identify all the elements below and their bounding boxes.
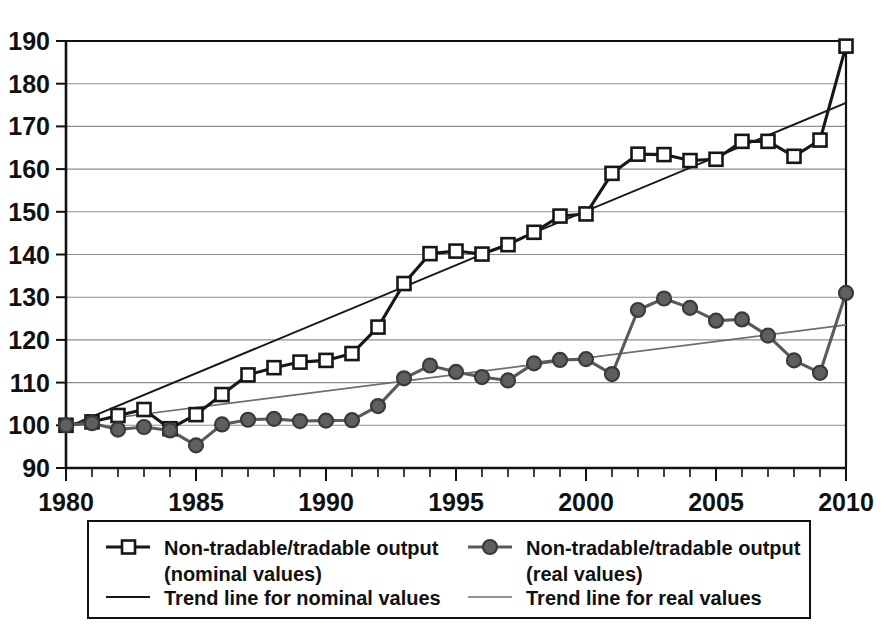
data-point-marker [423, 359, 437, 373]
data-point-marker [267, 412, 281, 426]
data-point-marker [632, 148, 645, 161]
data-point-marker [424, 247, 437, 260]
legend-entry-sublabel: (real values) [526, 563, 643, 585]
data-point-marker [658, 148, 671, 161]
data-point-marker [112, 409, 125, 422]
x-axis-tick-label: 2010 [818, 488, 874, 516]
data-point-marker [736, 135, 749, 148]
data-point-marker [137, 420, 151, 434]
data-point-marker [163, 423, 177, 437]
data-point-marker [111, 423, 125, 437]
data-point-marker [242, 368, 255, 381]
data-point-marker [59, 418, 73, 432]
data-point-marker [476, 248, 489, 261]
y-axis-tick-label: 110 [10, 369, 50, 397]
data-point-marker [840, 40, 853, 53]
y-axis-tick-label: 160 [8, 155, 50, 183]
data-point-marker [345, 413, 359, 427]
y-axis-tick-label: 150 [8, 198, 50, 226]
data-point-marker [631, 303, 645, 317]
data-point-marker [268, 361, 281, 374]
y-axis-tick-labels: 90100110120130140150160170180190 [8, 27, 50, 482]
data-point-marker [606, 167, 619, 180]
data-point-marker [501, 373, 515, 387]
data-point-marker [527, 356, 541, 370]
x-axis-tick-label: 1980 [38, 488, 94, 516]
y-axis-tick-label: 100 [8, 411, 50, 439]
data-point-marker [710, 153, 723, 166]
y-axis-tick-label: 190 [8, 27, 50, 55]
data-point-marker [189, 438, 203, 452]
x-axis-tick-label: 2005 [688, 488, 744, 516]
x-axis-major-ticks [66, 468, 846, 481]
legend-entry-label: Trend line for real values [526, 587, 762, 609]
data-point-marker [554, 210, 567, 223]
data-point-marker [684, 154, 697, 167]
data-point-marker [475, 370, 489, 384]
series-markers-group [59, 40, 853, 453]
chart-container: 90100110120130140150160170180190 1980198… [0, 0, 893, 636]
legend-entry-label: Non-tradable/tradable output [164, 537, 439, 559]
data-point-marker [813, 366, 827, 380]
data-point-marker [787, 353, 801, 367]
data-point-marker [398, 277, 411, 290]
legend-entry-sublabel: (nominal values) [164, 563, 322, 585]
data-point-marker [579, 352, 593, 366]
data-point-marker [397, 371, 411, 385]
x-axis-tick-label: 1990 [298, 488, 354, 516]
data-point-marker [372, 321, 385, 334]
y-axis-tick-label: 130 [8, 283, 50, 311]
chart-legend: Non-tradable/tradable output(nominal val… [88, 521, 810, 618]
y-axis-tick-label: 140 [8, 241, 50, 269]
x-axis-tick-label: 1985 [168, 488, 224, 516]
data-point-marker [138, 403, 151, 416]
x-axis-tick-labels: 1980198519901995200020052010 [38, 488, 874, 516]
data-point-marker [450, 245, 463, 258]
data-point-marker [319, 414, 333, 428]
x-axis-tick-label: 1995 [428, 488, 484, 516]
data-point-marker [320, 354, 333, 367]
data-point-marker [216, 388, 229, 401]
data-point-marker [293, 414, 307, 428]
data-point-marker [294, 356, 307, 369]
data-point-marker [190, 408, 203, 421]
data-point-marker [553, 353, 567, 367]
data-point-marker [657, 291, 671, 305]
data-point-marker [788, 150, 801, 163]
data-point-marker [346, 347, 359, 360]
data-point-marker [762, 135, 775, 148]
data-point-marker [215, 417, 229, 431]
legend-entry-label: Non-tradable/tradable output [526, 537, 801, 559]
data-point-marker [761, 329, 775, 343]
data-point-marker [814, 134, 827, 147]
data-point-marker [683, 301, 697, 315]
y-axis-tick-label: 120 [8, 326, 50, 354]
data-point-marker [735, 312, 749, 326]
chart-canvas: 90100110120130140150160170180190 1980198… [0, 0, 893, 636]
data-point-marker [709, 314, 723, 328]
y-axis-tick-label: 170 [8, 112, 50, 140]
data-point-marker [528, 226, 541, 239]
data-point-marker [580, 207, 593, 220]
data-point-marker [449, 365, 463, 379]
data-point-marker [371, 399, 385, 413]
data-point-marker [85, 416, 99, 430]
legend-entry-label: Trend line for nominal values [164, 587, 441, 609]
y-axis-tick-label: 180 [8, 70, 50, 98]
y-axis-tick-label: 90 [22, 454, 50, 482]
data-point-marker [839, 286, 853, 300]
data-point-marker [241, 413, 255, 427]
y-axis-ticks [56, 41, 66, 468]
x-axis-tick-label: 2000 [558, 488, 614, 516]
data-point-marker [502, 238, 515, 251]
data-point-marker [605, 367, 619, 381]
